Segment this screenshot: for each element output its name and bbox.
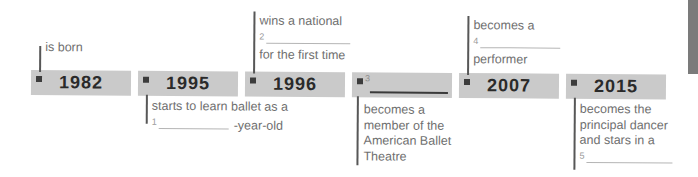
timeline-bar-2015: 2015	[566, 74, 666, 100]
note-line: for the first time	[259, 48, 350, 64]
note-line: principal dancer	[580, 117, 673, 133]
timeline-bar-blank-year: 3	[352, 72, 452, 98]
timeline-bar-1982: 1982	[31, 70, 131, 96]
blank-number-3: 3	[365, 73, 370, 83]
note-line: Theatre	[363, 149, 451, 165]
connector-line-2015	[573, 98, 576, 170]
timeline-marker	[143, 77, 149, 83]
timeline-marker	[250, 78, 256, 84]
note-line-with-blank: 4	[473, 34, 560, 53]
note-line-with-blank: 1-year-old	[152, 114, 288, 133]
page-edge-tab	[688, 0, 698, 74]
year-label-1996: 1996	[245, 71, 345, 97]
blank-number-1: 1	[152, 116, 157, 126]
note-2015: becomes the principal dancer and stars i…	[579, 102, 672, 168]
note-1982: is born	[45, 40, 83, 56]
connector-line-1982	[39, 46, 41, 72]
note-line: American Ballet	[364, 133, 452, 149]
note-blank-year: becomes a member of the American Ballet …	[363, 102, 451, 165]
note-line: becomes the	[580, 102, 673, 118]
connector-line-2007	[467, 16, 469, 75]
timeline-marker	[36, 76, 42, 82]
note-blank-suffix: -year-old	[234, 118, 283, 132]
timeline-marker	[357, 78, 363, 84]
timeline-marker	[571, 80, 577, 86]
year-label-1982: 1982	[31, 70, 131, 96]
fill-in-blank-5	[586, 150, 672, 163]
note-2007: becomes a 4 performer	[473, 18, 560, 68]
year-fill-in-blank	[370, 91, 448, 94]
worksheet-page: 1982 1995 1996 3 2007 2015	[0, 0, 698, 177]
note-line: performer	[473, 52, 560, 68]
note-line: is born	[45, 40, 83, 56]
connector-line-blank-year	[356, 96, 358, 165]
fill-in-blank-4	[480, 36, 560, 49]
note-1996: wins a national 2 for the first time	[259, 14, 350, 64]
note-line: becomes a	[473, 18, 560, 34]
year-label-1995: 1995	[138, 71, 238, 97]
year-label-2015: 2015	[566, 74, 666, 100]
timeline-marker	[464, 79, 470, 85]
timeline-bar-2007: 2007	[459, 73, 559, 99]
note-line-with-blank: 5	[579, 148, 672, 167]
note-line: and stars in a	[580, 133, 673, 149]
note-line: starts to learn ballet as a	[152, 99, 288, 115]
note-1995: starts to learn ballet as a 1-year-old	[152, 99, 288, 134]
note-line-with-blank: 2	[259, 29, 350, 48]
note-line: becomes a	[364, 102, 452, 118]
note-line: wins a national	[259, 14, 350, 30]
connector-line-1995	[146, 95, 148, 124]
timeline-bar-1996: 1996	[245, 71, 345, 97]
blank-number-2: 2	[259, 31, 264, 41]
connector-line-1996	[253, 12, 255, 74]
blank-number-4: 4	[473, 36, 478, 46]
fill-in-blank-1	[159, 116, 229, 128]
fill-in-blank-2	[266, 31, 350, 44]
year-label-2007: 2007	[459, 73, 559, 99]
timeline-bar-1995: 1995	[138, 71, 238, 97]
timeline: 1982 1995 1996 3 2007 2015	[0, 0, 698, 177]
blank-number-5: 5	[579, 150, 584, 160]
note-line: member of the	[364, 118, 452, 134]
